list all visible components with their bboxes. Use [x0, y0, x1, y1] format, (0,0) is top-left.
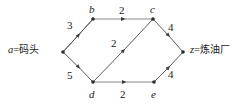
edge-weight-e-z: 4	[168, 69, 174, 80]
edge-weight-d-e: 2	[120, 89, 126, 100]
node-label-b: b	[89, 4, 95, 15]
source-annotation: a=码头	[8, 45, 39, 56]
node-e	[152, 80, 156, 84]
node-d	[91, 80, 95, 84]
edge-weight-d-c: 2	[111, 38, 117, 49]
edge-weight-b-c: 2	[119, 5, 125, 16]
sink-name: 炼油厂	[200, 44, 230, 55]
sink-annotation: z=炼油厂	[190, 45, 230, 56]
node-z	[181, 50, 185, 54]
node-c	[151, 17, 155, 21]
graph-figure: b c d e 3 5 2 2 2 4 4 a=码头 z=炼油厂	[0, 0, 250, 107]
edge-weight-a-b: 3	[67, 20, 73, 31]
edge-d-c	[93, 19, 153, 82]
graph-edges	[63, 19, 183, 82]
node-a	[61, 50, 65, 54]
edge-weight-c-z: 4	[168, 22, 174, 33]
node-label-e: e	[151, 89, 156, 100]
edge-weight-a-d: 5	[67, 70, 73, 81]
node-label-d: d	[89, 89, 95, 100]
node-b	[91, 17, 95, 21]
source-name: 码头	[19, 44, 39, 55]
node-label-c: c	[150, 4, 155, 15]
